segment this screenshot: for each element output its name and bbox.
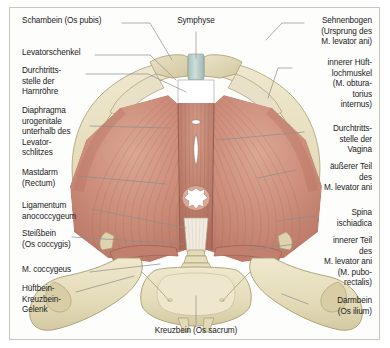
urogenital-diaphragm [178, 80, 214, 104]
label-m-coccygeus: M. coccygeus [22, 265, 108, 276]
label-kreuzbein: Kreuzbein (Os sacrum) [131, 326, 261, 337]
label-steissbein: Steißbein (Os coccygis) [22, 229, 108, 250]
label-levatorschenkel: Levatorschenkel [22, 48, 118, 59]
label-spina-ischiadica: Spina ischiadica [286, 208, 372, 229]
label-ligamentum-anococcygeum: Ligamentum anococcygeum [22, 201, 108, 222]
label-symphyse: Symphyse [160, 16, 232, 27]
label-sehnenbogen: Sehnenbogen (Ursprung des M. levator ani… [286, 16, 372, 48]
anatomy-figure: Schambein (Os pubis) Levatorschenkel Dur… [0, 0, 390, 348]
label-diaphragma-urogenitale: Diaphragma urogenitale unterhalb des Lev… [22, 106, 108, 159]
label-levator-ani-innerer-teil: innerer Teil des M. levator ani (M. pubo… [286, 236, 372, 289]
label-obturatorius-internus: innerer Hüft- lochmuskel (M. obtura- tor… [286, 58, 372, 111]
rectum-opening [182, 186, 210, 211]
label-huftbein-kreuzbein-gelenk: Hüftbein- Kreuzbein- Gelenk [22, 284, 102, 316]
label-durchtrittsstelle-vagina: Durchtritts- stelle der Vagina [286, 124, 372, 156]
label-levator-ani-aeusserer-teil: äußerer Teil des M. levator ani [286, 162, 372, 194]
label-durchtrittsstelle-harnroehre: Durchtritts- stelle der Harnröhre [22, 66, 102, 98]
urethra-opening [192, 120, 200, 124]
leader-schambein [122, 23, 172, 60]
label-mastdarm: Mastdarm (Rectum) [22, 168, 100, 189]
label-darmbein: Darmbein (Os ilium) [286, 296, 372, 317]
label-schambein: Schambein (Os pubis) [22, 16, 134, 27]
